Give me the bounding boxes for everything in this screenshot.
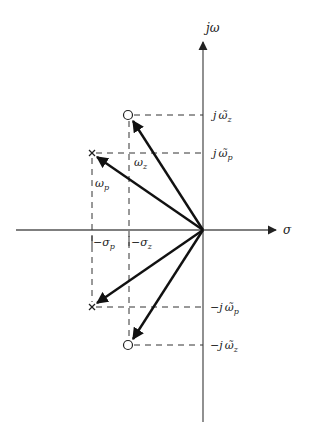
label-omega-p: ωp (95, 177, 109, 192)
label-j-omega-p-tilde: jω̃p (210, 147, 233, 162)
pole-marker-upper (89, 150, 95, 156)
label-omega-z: ωz (134, 156, 148, 171)
zero-marker-lower (124, 341, 133, 350)
label-neg-j-omega-z-tilde: −jω̃z (210, 339, 239, 354)
label-jomega: jω (203, 21, 220, 35)
pole-marker-lower (89, 304, 95, 310)
label-neg-j-omega-p-tilde: −jω̃p (210, 301, 239, 316)
vector-to-lower-pole (97, 230, 203, 303)
vector-to-upper-pole (97, 157, 203, 230)
label-j-omega-z-tilde: jω̃z (210, 109, 232, 124)
label-neg-sigma-z: −σz (131, 236, 153, 251)
vector-to-upper-zero (133, 121, 203, 230)
s-plane-diagram: jω σ jω̃z jω̃p −jω̃p −jω̃z ωz ωp −σp −σz (0, 0, 309, 439)
label-neg-sigma-p: −σp (93, 236, 115, 251)
zero-marker-upper (124, 111, 133, 120)
label-sigma: σ (283, 223, 292, 237)
